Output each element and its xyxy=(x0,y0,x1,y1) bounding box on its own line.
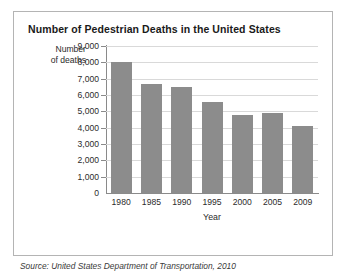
plot-area xyxy=(106,46,318,193)
y-axis-tick-label: 4,000 xyxy=(59,124,99,133)
x-axis-tick-label: 2005 xyxy=(258,197,288,207)
source-note: Source: United States Department of Tran… xyxy=(20,261,236,271)
bar xyxy=(262,113,283,193)
y-axis-tick-label: 2,000 xyxy=(59,156,99,165)
y-axis-tick-label: 3,000 xyxy=(59,140,99,149)
y-axis-tick-label: 9,000 xyxy=(59,42,99,51)
gridline xyxy=(106,79,318,80)
bar xyxy=(202,102,223,193)
x-axis-line xyxy=(106,193,319,194)
x-axis-title: Year xyxy=(106,212,318,222)
chart-title: Number of Pedestrian Deaths in the Unite… xyxy=(28,23,281,35)
bar xyxy=(171,87,192,193)
y-axis-tick-label: 5,000 xyxy=(59,107,99,116)
x-axis-tick-label: 1995 xyxy=(197,197,227,207)
bar xyxy=(141,84,162,193)
y-axis-tick-label: 0 xyxy=(59,189,99,198)
page-background: Number of Pedestrian Deaths in the Unite… xyxy=(0,0,341,275)
x-axis-tick-label: 2009 xyxy=(288,197,318,207)
x-axis-tick-label: 1985 xyxy=(136,197,166,207)
y-axis-tick-label: 7,000 xyxy=(59,75,99,84)
x-axis-tick-label: 1990 xyxy=(167,197,197,207)
bar xyxy=(232,115,253,193)
chart-figure-frame: Number of Pedestrian Deaths in the Unite… xyxy=(13,11,333,256)
x-axis-tick-label: 2000 xyxy=(227,197,257,207)
gridline xyxy=(106,46,318,47)
x-axis-tick-label: 1980 xyxy=(106,197,136,207)
bar xyxy=(292,126,313,193)
y-axis-tick-label: 8,000 xyxy=(59,58,99,67)
bar xyxy=(111,62,132,193)
y-axis-tick-label: 6,000 xyxy=(59,91,99,100)
gridline xyxy=(106,95,318,96)
y-axis-tick-label: 1,000 xyxy=(59,173,99,182)
gridline xyxy=(106,62,318,63)
